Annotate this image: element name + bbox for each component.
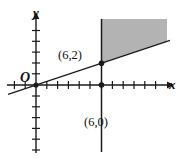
shaded-region — [102, 19, 168, 63]
graph-figure: y x O (6,2) (6,0) — [0, 0, 181, 158]
y-axis-label: y — [33, 6, 39, 19]
point-label-6-0: (6,0) — [84, 116, 108, 129]
sloped-line — [8, 40, 170, 94]
point-marker-6-2 — [99, 61, 105, 67]
x-axis-label: x — [169, 78, 176, 91]
point-marker-origin — [33, 82, 38, 87]
origin-label: O — [20, 71, 30, 85]
point-label-6-2: (6,2) — [58, 49, 82, 62]
point-marker-6-0 — [99, 82, 105, 88]
